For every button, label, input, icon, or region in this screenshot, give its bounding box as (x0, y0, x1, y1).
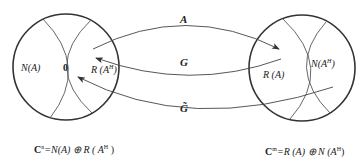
mapping-a-arrow (93, 26, 279, 50)
right-space-circle (249, 15, 355, 121)
mapping-g-arrow (96, 58, 281, 75)
right-space-formula: Cm=R (A) ⊕ N (AH) (265, 146, 344, 157)
zero-label: 0 (63, 63, 68, 73)
mapping-g-label: G (180, 57, 188, 68)
left-space-formula: Cn=N(A) ⊕ R ( AH ) (34, 144, 114, 155)
null-space-adjoint-label: N(AH) (311, 58, 335, 69)
mapping-g-tilde-label: G̃ (180, 103, 188, 114)
null-space-label: N(A) (21, 63, 40, 73)
mapping-a-label: A (180, 14, 187, 25)
range-label: R (A) (263, 70, 284, 80)
range-adjoint-label: R (AH) (91, 64, 117, 75)
